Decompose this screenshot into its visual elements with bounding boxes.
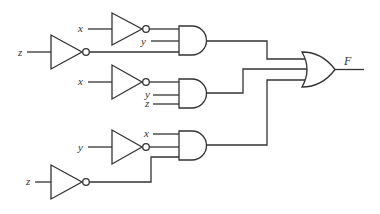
- not-gate-z-top: z: [17, 35, 179, 69]
- wire-and3-to-or: [207, 80, 307, 145]
- input-label-z-2: z: [144, 97, 150, 109]
- input-label-x-1: x: [77, 22, 83, 34]
- or-gate-shape-icon: [302, 52, 335, 87]
- not-triangle-icon: [51, 35, 82, 69]
- wire-and1-to-or: [207, 41, 307, 59]
- not-triangle-icon: [112, 13, 142, 45]
- not-gate-x-middle: x: [77, 65, 179, 99]
- and-gate-1: y: [140, 26, 306, 59]
- inversion-bubble-icon: [83, 49, 90, 56]
- not-triangle-icon: [112, 130, 142, 164]
- and-gate-3: x: [143, 80, 306, 160]
- and-gate-shape-icon: [179, 79, 207, 108]
- and-gate-shape-icon: [179, 131, 207, 160]
- inversion-bubble-icon: [83, 179, 90, 186]
- input-label-z-3: z: [25, 175, 31, 187]
- or-gate: F: [302, 52, 364, 87]
- inversion-bubble-icon: [143, 144, 150, 151]
- not-gate-x-top: x: [77, 13, 179, 45]
- wire-zbar-to-and3: [89, 157, 179, 182]
- logic-circuit-diagram: x z y x y z y: [0, 0, 380, 214]
- input-label-y-3: y: [77, 141, 83, 153]
- input-label-y-1: y: [140, 35, 146, 47]
- not-gate-z-bottom: z: [25, 157, 179, 199]
- wire-and2-to-or: [207, 69, 309, 93]
- input-label-x-3: x: [143, 127, 149, 139]
- inversion-bubble-icon: [143, 79, 150, 86]
- input-label-x-2: x: [77, 75, 83, 87]
- input-label-z-1: z: [17, 46, 23, 58]
- not-gate-y: y: [77, 130, 179, 164]
- and-gate-shape-icon: [179, 26, 207, 55]
- inversion-bubble-icon: [143, 26, 150, 33]
- not-triangle-icon: [112, 65, 142, 99]
- not-triangle-icon: [51, 165, 82, 199]
- output-label-F: F: [343, 54, 352, 68]
- and-gate-2: y z: [144, 69, 308, 109]
